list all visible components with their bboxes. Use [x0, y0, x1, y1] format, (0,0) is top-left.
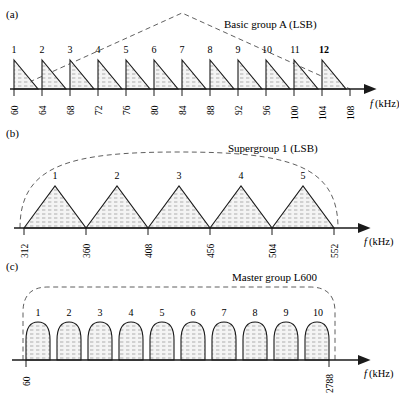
channel-number: 12: [319, 44, 329, 55]
panel-b-ticks: [24, 228, 334, 235]
channel-shape: [14, 60, 38, 89]
tick-label: 552: [330, 244, 340, 259]
channel-number: 4: [129, 307, 134, 318]
panel-c-axis-label: f(kHz): [364, 368, 394, 380]
tick-label: 504: [268, 244, 278, 259]
channel-number: 2: [67, 307, 72, 318]
tick-label: 88: [206, 105, 216, 115]
tick-label: 80: [150, 105, 160, 115]
panel-c-title: Master group L600: [232, 271, 317, 283]
channel-shape: [238, 60, 262, 89]
channel-shape: [98, 60, 122, 89]
panel-b-label: (b): [6, 127, 19, 140]
channel-shape: [266, 60, 290, 89]
panel-a-channels: [14, 60, 346, 89]
channel-shape: [86, 186, 148, 228]
channel-number: 3: [98, 307, 103, 318]
channel-number: 1: [53, 170, 58, 181]
channel-number: 6: [152, 44, 157, 55]
channel-shape: [148, 186, 210, 228]
channel-shape: [182, 60, 206, 89]
channel-shape: [243, 322, 267, 360]
channel-number: 8: [253, 307, 258, 318]
panel-c: (c) Master group L600 1 2 3 4 5 6 7 8: [6, 260, 394, 393]
channel-number: 7: [222, 307, 227, 318]
tick-label: 92: [234, 105, 244, 115]
panel-b-channels: [24, 186, 334, 228]
tick-label: 408: [144, 244, 154, 259]
channel-shape: [274, 322, 298, 360]
channel-number: 10: [313, 307, 323, 318]
panel-a-ticks: [14, 89, 350, 96]
channel-number: 1: [36, 307, 41, 318]
channel-number: 1: [12, 44, 17, 55]
tick-label: 76: [122, 105, 132, 115]
channel-shape: [70, 60, 94, 89]
panel-b: (b) Supergroup 1 (LSB) 1 2 3 4 5 312: [6, 127, 394, 258]
panel-a: (a) Basic group A (LSB) 1 2 3 4 5 6: [6, 8, 399, 120]
tick-label: 312: [20, 244, 30, 259]
channel-number: 7: [180, 44, 185, 55]
channel-shape: [150, 322, 174, 360]
tick-label: 100: [290, 106, 300, 121]
tick-label: 60: [22, 376, 32, 386]
panel-c-channels: [26, 322, 329, 360]
tick-label: 84: [178, 105, 188, 115]
channel-number: 9: [236, 44, 241, 55]
panel-a-label: (a): [6, 8, 19, 21]
tick-label: 60: [10, 105, 20, 115]
tick-label: 72: [94, 105, 104, 115]
channel-shape: [57, 322, 81, 360]
panel-b-title: Supergroup 1 (LSB): [228, 142, 318, 155]
channel-number: 6: [191, 307, 196, 318]
channel-number: 3: [177, 170, 182, 181]
channel-shape: [322, 60, 346, 89]
panel-b-tick-labels: 312 360 408 456 504 552: [20, 244, 340, 259]
tick-label: 68: [66, 105, 76, 115]
tick-label: 456: [206, 244, 216, 259]
channel-shape: [42, 60, 66, 89]
channel-number: 2: [40, 44, 45, 55]
channel-number: 11: [290, 44, 300, 55]
panel-b-channel-numbers: 1 2 3 4 5: [53, 170, 306, 181]
channel-shape: [126, 60, 150, 89]
channel-shape: [181, 322, 205, 360]
tick-label: 360: [82, 244, 92, 259]
channel-number: 4: [96, 44, 101, 55]
channel-number: 8: [208, 44, 213, 55]
channel-number: 5: [301, 170, 306, 181]
channel-shape: [119, 322, 143, 360]
channel-shape: [305, 322, 329, 360]
panel-b-axis-label: f(kHz): [364, 236, 394, 248]
channel-shape: [212, 322, 236, 360]
tick-label: 2788: [325, 374, 335, 393]
panel-c-label: (c): [6, 260, 19, 273]
fdm-hierarchy-figure: (a) Basic group A (LSB) 1 2 3 4 5 6: [0, 0, 399, 398]
tick-label: 64: [38, 105, 48, 115]
panel-a-title: Basic group A (LSB): [224, 18, 317, 31]
channel-shape: [294, 60, 318, 89]
channel-number: 4: [239, 170, 244, 181]
channel-shape: [272, 186, 334, 228]
channel-shape: [24, 186, 86, 228]
channel-number: 2: [115, 170, 120, 181]
channel-number: 10: [262, 44, 272, 55]
channel-number: 5: [160, 307, 165, 318]
panel-c-ticks: [26, 360, 329, 367]
channel-number: 9: [284, 307, 289, 318]
channel-shape: [26, 322, 50, 360]
channel-shape: [210, 60, 234, 89]
panel-c-channel-numbers: 1 2 3 4 5 6 7 8 9 10: [36, 307, 324, 318]
panel-a-axis-label: f(kHz): [370, 98, 399, 110]
channel-number: 5: [124, 44, 129, 55]
channel-shape: [210, 186, 272, 228]
tick-label: 108: [346, 106, 356, 121]
panel-a-channel-numbers: 1 2 3 4 5 6 7 8 9 10 11 12: [12, 44, 330, 55]
panel-c-tick-labels: 60 2788: [22, 374, 335, 393]
channel-shape: [154, 60, 178, 89]
tick-label: 104: [318, 106, 328, 121]
tick-label: 96: [262, 105, 272, 115]
panel-a-tick-labels: 60 64 68 72 76 80 84 88 92 96 100 104 10…: [10, 105, 356, 120]
channel-shape: [88, 322, 112, 360]
channel-number: 3: [68, 44, 73, 55]
